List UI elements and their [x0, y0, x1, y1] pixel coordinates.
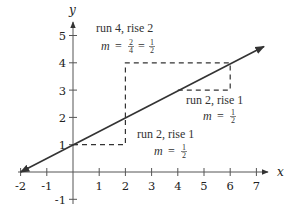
- x-tick-label: 5: [200, 179, 207, 193]
- y-tick-labels: 5 4 3 2 1 -1: [55, 29, 66, 207]
- equals-sign: =: [115, 39, 122, 53]
- y-tick-label: 5: [59, 29, 66, 43]
- slope-diagram: x y -2 -1 1 2 3 4 5 6 7 5 4 3: [0, 0, 300, 214]
- annotation-text: run 4, rise 2: [96, 21, 153, 35]
- fraction-denominator: 2: [150, 46, 154, 55]
- annotation-text: run 2, rise 1: [137, 127, 194, 141]
- slope-symbol: m: [154, 144, 163, 158]
- x-axis: x: [18, 165, 284, 179]
- fraction-denominator: 4: [129, 46, 133, 55]
- equals-sign: =: [217, 109, 224, 123]
- y-tick-label: 3: [59, 84, 66, 98]
- equals-sign: =: [138, 39, 145, 53]
- fraction-denominator: 2: [182, 151, 186, 160]
- x-tick-label: -1: [41, 179, 52, 193]
- annotation-run4-rise2: run 4, rise 2 m = 2 4 = 1 2: [96, 21, 155, 55]
- equals-sign: =: [168, 144, 175, 158]
- x-tick-label: 6: [227, 179, 234, 193]
- x-tick-labels: -2 -1 1 2 3 4 5 6 7: [15, 179, 260, 193]
- slope-line: [21, 47, 264, 173]
- x-tick-label: 1: [96, 179, 103, 193]
- slope-symbol: m: [203, 109, 212, 123]
- x-axis-label: x: [277, 165, 284, 179]
- x-tick-label: 3: [148, 179, 155, 193]
- x-tick-label: 2: [122, 179, 129, 193]
- y-tick-label: 2: [59, 111, 66, 125]
- y-tick-label: 4: [59, 56, 66, 70]
- fraction-denominator: 2: [231, 116, 235, 125]
- x-tick-label: 7: [253, 179, 260, 193]
- x-tick-label: 4: [174, 179, 181, 193]
- annotation-run2-rise1-lower: run 2, rise 1 m = 1 2: [137, 127, 194, 160]
- x-tick-label: -2: [15, 179, 26, 193]
- y-axis: y: [68, 3, 76, 204]
- annotation-run2-rise1-upper: run 2, rise 1 m = 1 2: [186, 93, 243, 125]
- y-tick-label: -1: [55, 193, 66, 207]
- annotation-text: run 2, rise 1: [186, 93, 243, 107]
- slope-symbol: m: [101, 39, 110, 53]
- y-axis-label: y: [68, 3, 76, 17]
